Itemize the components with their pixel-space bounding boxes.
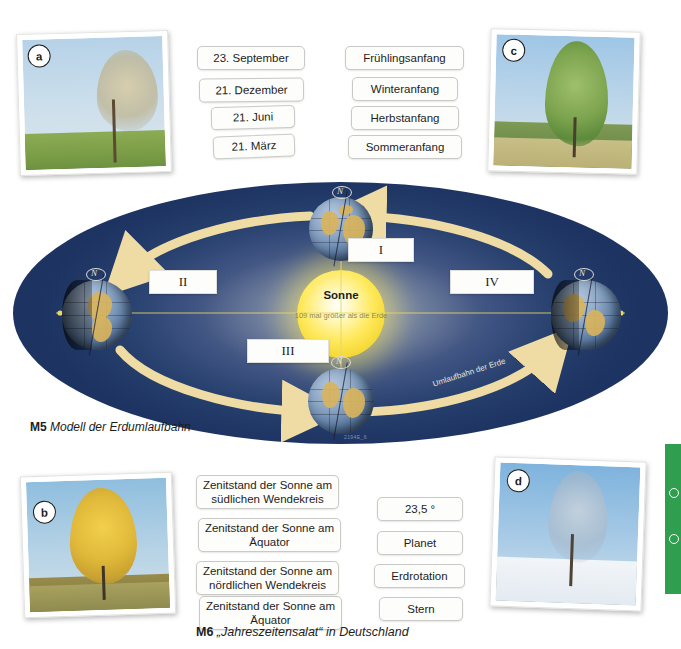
axis-north-label-iv: N (579, 268, 585, 278)
chip-season-2[interactable]: Winteranfang (352, 77, 458, 101)
chip-term-4[interactable]: Stern (379, 597, 463, 621)
photo-card-b: b (20, 472, 176, 619)
chip-date-2[interactable]: 21. Dezember (199, 77, 304, 102)
caption-m5-text: Modell der Erdumlaufbahn (50, 420, 191, 434)
chip-date-4[interactable]: 21. März (213, 133, 296, 159)
sidebar-bullet-icon (669, 488, 679, 498)
orbit-diagram: Sonne 109 mal größer als die Erde N (0, 182, 681, 450)
sidebar-green-strip (665, 444, 681, 594)
photo-card-c: c (487, 28, 640, 175)
sun-label: Sonne (297, 289, 385, 301)
chip-date-3[interactable]: 21. Juni (211, 105, 296, 130)
orbit-position-label-ii[interactable]: II (149, 270, 217, 294)
photo-card-d: d (489, 456, 646, 611)
orbit-position-label-iii[interactable]: III (247, 339, 329, 363)
chip-term-2[interactable]: Planet (377, 531, 463, 555)
chip-zenith-3[interactable]: Zenitstand der Sonne am nördlichen Wende… (196, 561, 339, 595)
globe-night-side (62, 280, 92, 350)
orbit-position-label-i[interactable]: I (348, 238, 414, 262)
earth-globe-position-ii (62, 280, 132, 350)
orbit-position-label-iv[interactable]: IV (450, 270, 534, 294)
photo-card-a: a (16, 30, 172, 176)
caption-m5: M5 Modell der Erdumlaufbahn (30, 420, 230, 436)
chip-zenith-1[interactable]: Zenitstand der Sonne am südlichen Wendek… (196, 475, 339, 509)
sun-sublabel: 109 mal größer als die Erde (255, 311, 427, 320)
caption-m5-number: M5 (30, 420, 47, 434)
chip-season-4[interactable]: Sommeranfang (348, 135, 462, 159)
caption-m6: M6 „Jahreszeitensalat“ in Deutschland (196, 625, 409, 639)
figure-id-text: 2194E_6 (344, 434, 367, 440)
earth-globe-position-iv (551, 280, 621, 350)
photo-image-autumn (26, 478, 170, 612)
chip-season-3[interactable]: Herbstanfang (351, 106, 459, 130)
caption-m6-text: „Jahreszeitensalat“ in Deutschland (217, 625, 409, 639)
sidebar-bullet-icon (669, 534, 679, 544)
axis-north-label-iii: N (336, 356, 342, 366)
chip-term-1[interactable]: 23,5 ° (377, 497, 463, 521)
earth-globe-position-iii (308, 368, 374, 434)
axis-north-label-ii: N (91, 268, 97, 278)
chip-season-1[interactable]: Frühlingsanfang (345, 46, 464, 70)
axis-north-label-i: N (337, 186, 343, 196)
globe-night-side (551, 280, 579, 350)
chip-term-3[interactable]: Erdrotation (374, 564, 465, 588)
chip-date-1[interactable]: 23. September (197, 46, 305, 70)
caption-m6-number: M6 (196, 625, 213, 639)
chip-zenith-2[interactable]: Zenitstand der Sonne am Äquator (198, 518, 341, 552)
